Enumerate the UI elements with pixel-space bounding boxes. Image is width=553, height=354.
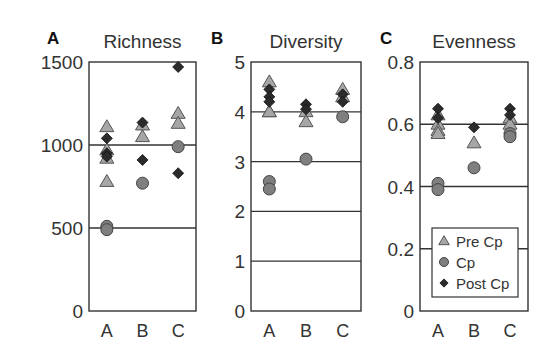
x-tick-label: A (263, 321, 275, 341)
y-tick-label: 4 (234, 102, 245, 123)
y-tick-label: 0.4 (388, 177, 415, 198)
circle-marker (137, 177, 149, 189)
circle-marker (300, 153, 312, 165)
diamond-marker (101, 133, 112, 144)
panel-diversity: 012345ABCBDiversity (211, 29, 361, 341)
y-tick-label: 0 (403, 301, 414, 322)
panel-title: Diversity (270, 31, 343, 52)
y-tick-label: 500 (51, 218, 83, 239)
legend-label: Pre Cp (456, 233, 503, 250)
x-tick-label: B (300, 321, 312, 341)
panel-label: C (380, 29, 392, 48)
y-tick-label: 0 (72, 301, 83, 322)
x-tick-label: A (432, 321, 444, 341)
y-tick-label: 0.2 (388, 239, 414, 260)
circle-marker (440, 258, 449, 267)
circle-marker (432, 184, 444, 196)
diamond-marker (173, 168, 184, 179)
x-tick-label: C (172, 321, 185, 341)
y-tick-label: 0.8 (388, 52, 414, 73)
circle-marker (337, 111, 349, 123)
x-tick-label: C (336, 321, 349, 341)
y-tick-label: 5 (234, 52, 245, 73)
triangle-marker (100, 120, 114, 132)
panel-label: B (211, 29, 223, 48)
circle-marker (504, 131, 516, 143)
x-tick-label: B (468, 321, 480, 341)
triangle-marker (100, 175, 114, 187)
circle-marker (468, 162, 480, 174)
x-tick-label: B (136, 321, 148, 341)
circle-marker (263, 183, 275, 195)
triangle-marker (136, 130, 150, 142)
x-tick-label: A (101, 321, 113, 341)
legend-label: Post Cp (456, 275, 509, 292)
x-tick-label: C (504, 321, 517, 341)
y-tick-label: 1500 (41, 52, 83, 73)
y-tick-label: 1 (234, 251, 245, 272)
circle-marker (101, 224, 113, 236)
diamond-marker (469, 122, 480, 133)
circle-marker (172, 141, 184, 153)
panel-label: A (47, 29, 59, 48)
panel-title: Richness (103, 31, 181, 52)
y-tick-label: 1000 (41, 135, 83, 156)
diamond-marker (137, 154, 148, 165)
legend-label: Cp (456, 254, 475, 271)
panel-title: Evenness (432, 31, 515, 52)
y-tick-label: 2 (234, 201, 245, 222)
figure: 050010001500ABCARichness 012345ABCBDiver… (0, 0, 553, 354)
triangle-marker (467, 136, 481, 148)
y-tick-label: 3 (234, 152, 245, 173)
y-tick-label: 0.6 (388, 114, 414, 135)
panel-richness: 050010001500ABCARichness (41, 29, 196, 341)
y-tick-label: 0 (234, 301, 245, 322)
legend: Pre CpCpPost Cp (432, 228, 518, 297)
diamond-marker (173, 61, 184, 72)
